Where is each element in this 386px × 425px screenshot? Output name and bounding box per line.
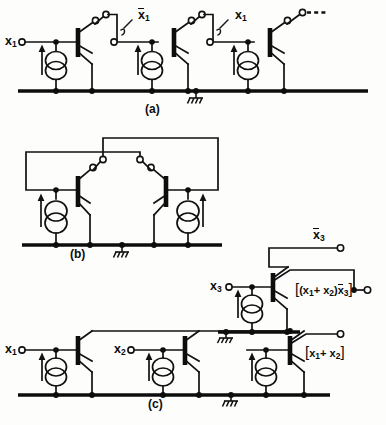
- tb1-switch-contact[interactable]: [100, 156, 106, 162]
- gnd-hatch: [188, 98, 191, 104]
- current-source-circle: [142, 52, 163, 70]
- gnd-hatch: [114, 252, 117, 258]
- junction-dot: [263, 392, 269, 398]
- csx3-arrow-head: [235, 290, 242, 298]
- junction-dot: [89, 88, 95, 94]
- junction-dot: [53, 242, 59, 248]
- t1-emitter-lead-2: [78, 52, 92, 64]
- current-source-circle: [46, 52, 67, 70]
- cs3-arrow-head: [231, 45, 238, 53]
- junction-dot: [185, 88, 191, 94]
- tc3-emitter-lead-2: [290, 360, 304, 372]
- x1bar-node-wire: [108, 15, 158, 43]
- current-source-circle: [256, 368, 277, 386]
- tb2-switch-contact[interactable]: [137, 156, 143, 162]
- caption-part-c: (c): [148, 398, 163, 410]
- x1-tap-terminal[interactable]: [207, 39, 213, 45]
- tb1-emitter-lead-2: [78, 202, 90, 215]
- caption-part-a: (a): [145, 103, 160, 115]
- x1bar-label-pointer: [124, 20, 132, 28]
- csb2-arrow-head: [200, 194, 207, 202]
- label-part-c-input-x1: x1: [5, 343, 17, 356]
- x1-label-pointer: [220, 20, 228, 28]
- part-c-or-stage-group: [18, 290, 354, 407]
- gnd-hatch: [126, 252, 129, 258]
- label-part-c-x3-bar: x3: [313, 228, 325, 242]
- gnd-hatch: [122, 252, 125, 258]
- tc2-emitter-lead-2: [185, 360, 199, 372]
- part-a-group: [18, 9, 368, 103]
- junction-dot: [281, 88, 287, 94]
- gnd-hatch: [192, 98, 195, 104]
- csc3-arrow-head: [249, 353, 256, 361]
- gnd-hatch: [200, 98, 203, 104]
- cs2-arrow-head: [135, 45, 142, 53]
- cs1-arrow-head: [39, 45, 46, 53]
- junction-dot: [185, 242, 191, 248]
- current-source-circle: [153, 358, 174, 376]
- part-b-feedback-right: [103, 138, 218, 190]
- x1bar-tap-terminal[interactable]: [111, 39, 117, 45]
- or-bus-junction: [287, 328, 293, 334]
- part-b-feedback-left: [26, 152, 140, 190]
- tc1-emitter-lead-2: [78, 360, 92, 372]
- current-source-circle: [256, 358, 277, 376]
- label-part-c-or-output: [x1+ x2]: [305, 344, 345, 360]
- t2-emitter-lead-2: [174, 52, 188, 64]
- switch3-contact[interactable]: [299, 9, 305, 15]
- current-source-circle: [46, 358, 67, 376]
- junction-dot: [196, 392, 202, 398]
- junction-dot: [249, 329, 255, 335]
- current-source-circle: [45, 201, 67, 221]
- or-output-terminal[interactable]: [337, 331, 343, 337]
- x3bar-output-terminal[interactable]: [337, 245, 343, 251]
- current-source-circle: [142, 62, 163, 80]
- gnd-hatch: [223, 401, 226, 407]
- current-source-circle: [238, 52, 259, 70]
- circuit-schematic-svg: [0, 0, 386, 425]
- junction-dot: [53, 88, 59, 94]
- csb1-arrow-head: [38, 194, 45, 202]
- tb1-collector-lead: [78, 170, 90, 180]
- x3bar-output-wire: [269, 248, 337, 267]
- part-b-group: [22, 138, 222, 258]
- label-part-c-input-x2: x2: [114, 343, 126, 356]
- label-part-a-input-x1: x1: [5, 35, 17, 48]
- gnd-hatch: [196, 98, 199, 104]
- current-source-circle: [45, 213, 67, 233]
- junction-dot: [151, 242, 157, 248]
- gnd-hatch: [231, 401, 234, 407]
- junction-dot: [245, 88, 251, 94]
- current-source-circle: [153, 368, 174, 386]
- csc2-arrow-head: [146, 353, 153, 361]
- t3-emitter-lead-2: [270, 52, 284, 64]
- junction-dot: [89, 392, 95, 398]
- part-a-input-terminal-x1[interactable]: [19, 39, 25, 45]
- current-source-circle: [46, 62, 67, 80]
- junction-dot: [53, 392, 59, 398]
- part-c-input-terminal-x1[interactable]: [19, 347, 25, 353]
- tx3-emitter-lead-2: [273, 297, 287, 309]
- part-c-input-terminal-x2[interactable]: [128, 347, 134, 353]
- junction-dot: [301, 392, 307, 398]
- gnd-hatch: [235, 401, 238, 407]
- gnd-hatch: [118, 252, 121, 258]
- x1bar-label-curl: [121, 29, 125, 35]
- label-part-c-and-output: [(x1+ x2)x3]: [295, 281, 353, 297]
- x1-label-curl: [217, 29, 221, 35]
- and-output-terminal[interactable]: [364, 287, 370, 293]
- label-part-a-x1: x1: [235, 9, 247, 22]
- gnd-hatch: [218, 338, 221, 343]
- label-part-a-x1-bar: x1: [138, 8, 150, 22]
- tb2-emitter-lead-2: [154, 202, 166, 215]
- part-c-input-terminal-x3[interactable]: [226, 284, 232, 290]
- current-source-circle: [177, 213, 199, 233]
- junction-dot: [149, 88, 155, 94]
- tb2-collector-lead: [154, 170, 166, 180]
- junction-dot: [87, 242, 93, 248]
- current-source-circle: [242, 295, 263, 313]
- current-source-circle: [46, 368, 67, 386]
- diagram-sheet: x1 x1 x1 (a) (b) x3 x3 [(x1+ x2)x3] x1 x…: [0, 0, 386, 425]
- current-source-circle: [242, 305, 263, 323]
- current-source-circle: [177, 201, 199, 221]
